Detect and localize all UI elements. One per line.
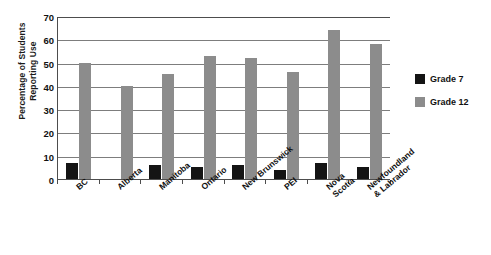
- bar: [66, 163, 78, 179]
- y-axis-title-line-1: Percentage of Students: [17, 0, 28, 151]
- bar: [232, 165, 244, 179]
- bar: [162, 74, 174, 179]
- bar-group: [183, 17, 225, 179]
- legend-item[interactable]: Grade 7: [415, 73, 487, 84]
- bar-group: [100, 17, 142, 179]
- bar: [191, 167, 203, 179]
- bar-group: [141, 17, 183, 179]
- plot-area: [57, 17, 390, 180]
- legend-item[interactable]: Grade 12: [415, 96, 487, 107]
- bar-group: [58, 17, 100, 179]
- x-axis-category-labels: BCAlbertaManitobaOntarioNew BrunswickPEI…: [57, 184, 390, 255]
- y-axis-tick-10: 10: [30, 151, 54, 162]
- y-axis-tick-60: 60: [30, 35, 54, 46]
- legend-swatch-icon: [415, 97, 425, 107]
- bar: [328, 30, 340, 179]
- bar: [121, 86, 133, 179]
- y-axis-tick-20: 20: [30, 128, 54, 139]
- bar: [79, 63, 91, 179]
- bar: [315, 163, 327, 179]
- bar-chart: Percentage of Students Reporting Use 010…: [0, 0, 491, 255]
- bar: [274, 170, 286, 179]
- legend-label: Grade 7: [430, 74, 464, 84]
- bar: [149, 165, 161, 179]
- bar-groups: [58, 17, 390, 179]
- legend-label: Grade 12: [430, 97, 469, 107]
- bar: [287, 72, 299, 179]
- chart-legend: Grade 7Grade 12: [415, 73, 487, 119]
- y-axis-tick-30: 30: [30, 105, 54, 116]
- bar-group: [224, 17, 266, 179]
- bar: [245, 58, 257, 179]
- legend-swatch-icon: [415, 74, 425, 84]
- y-axis-tick-70: 70: [30, 12, 54, 23]
- bar-group: [307, 17, 349, 179]
- bar: [204, 56, 216, 179]
- y-axis-tick-0: 0: [30, 175, 54, 186]
- y-axis-tick-labels: 010203040506070: [30, 17, 54, 180]
- y-axis-tick-40: 40: [30, 81, 54, 92]
- y-axis-tick-50: 50: [30, 58, 54, 69]
